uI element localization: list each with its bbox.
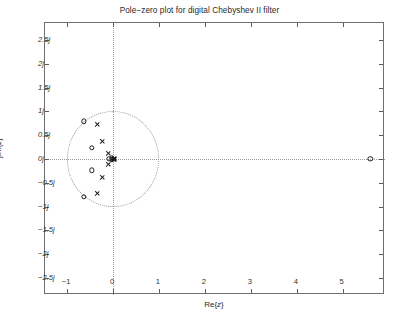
y-axis-tick (379, 278, 383, 279)
y-axis-tick (379, 183, 383, 184)
x-axis-tick (159, 289, 160, 293)
x-tick-label: 5 (340, 277, 344, 286)
y-axis-tick (45, 111, 49, 112)
x-axis-tick (251, 289, 252, 293)
y-axis-tick (379, 40, 383, 41)
y-axis-tick (379, 135, 383, 136)
x-tick-label: 1 (156, 277, 160, 286)
y-axis-tick (379, 88, 383, 89)
y-axis-tick (379, 111, 383, 112)
x-axis-tick (343, 289, 344, 293)
x-axis-tick (67, 23, 68, 27)
x-axis-tick (297, 23, 298, 27)
y-axis-tick (45, 64, 49, 65)
x-axis-tick (297, 289, 298, 293)
x-axis-title: Re{z} (44, 300, 384, 309)
pole-marker (106, 162, 111, 167)
x-tick-label: 4 (294, 277, 298, 286)
zero-marker (368, 156, 373, 161)
x-tick-label: 3 (248, 277, 252, 286)
y-axis-title: jIm{z} (0, 138, 3, 158)
x-tick-label: 0 (110, 277, 114, 286)
pole-marker (100, 138, 105, 143)
pole-marker (95, 122, 100, 127)
x-axis-tick (113, 23, 114, 27)
x-tick-label: −1 (62, 277, 71, 286)
x-axis-tick (251, 23, 252, 27)
x-axis-tick (205, 289, 206, 293)
y-axis-tick (45, 159, 49, 160)
page-title: Pole−zero plot for digital Chebyshev II … (0, 6, 399, 15)
pole-marker (100, 174, 105, 179)
y-axis-tick (379, 64, 383, 65)
x-tick-label: 2 (202, 277, 206, 286)
y-axis-tick (379, 230, 383, 231)
x-axis-tick (113, 289, 114, 293)
pole-marker (95, 191, 100, 196)
x-axis-tick (205, 23, 206, 27)
pole-marker (106, 151, 111, 156)
pole-marker (110, 156, 115, 161)
x-axis-tick (67, 289, 68, 293)
y-axis-tick (379, 254, 383, 255)
y-axis-tick (379, 159, 383, 160)
plot-area (44, 22, 384, 294)
y-axis-tick (379, 207, 383, 208)
x-axis-tick (343, 23, 344, 27)
x-axis-tick (159, 23, 160, 27)
figure-canvas: Pole−zero plot for digital Chebyshev II … (0, 0, 399, 332)
